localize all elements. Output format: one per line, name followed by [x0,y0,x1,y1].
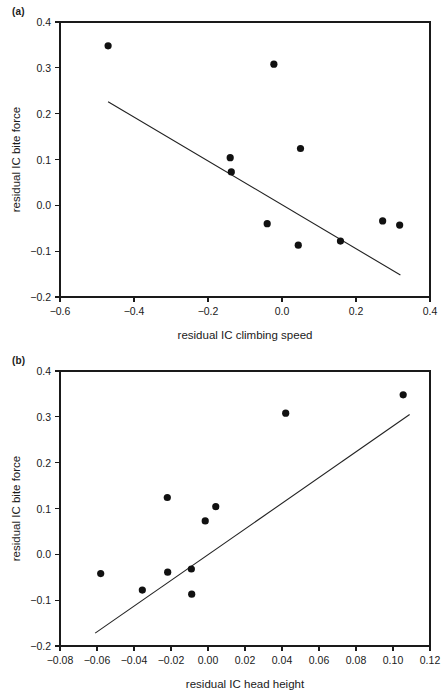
data-point [295,242,302,249]
y-tick-label: −0.2 [30,640,51,652]
y-axis-title: residual IC bite force [10,456,22,561]
plot-frame [60,371,430,646]
x-tick-label: 0.04 [272,654,293,666]
data-point [212,503,219,510]
y-tick-label: 0.0 [36,199,51,211]
y-tick-label: 0.2 [36,108,51,120]
data-point [164,569,171,576]
y-tick-label: −0.1 [30,594,51,606]
x-tick-label: −0.6 [50,305,71,317]
data-point [228,168,235,175]
panel-b: (b) −0.08−0.06−0.04−0.020.000.020.040.06… [0,349,447,699]
x-axis-title: residual IC climbing speed [178,329,313,341]
data-point [188,565,195,572]
panel-b-label: (b) [12,355,25,366]
y-tick-label: −0.1 [30,245,51,257]
x-tick-label: 0.06 [309,654,330,666]
data-point [400,391,407,398]
x-tick-label: 0.08 [346,654,367,666]
x-tick-label: 0.10 [383,654,404,666]
data-point [164,494,171,501]
x-tick-label: 0.12 [420,654,441,666]
y-tick-label: 0.1 [36,503,51,515]
data-point [105,42,112,49]
data-point [264,220,271,227]
data-point [139,586,146,593]
y-tick-label: −0.2 [30,291,51,303]
x-tick-label: −0.04 [121,654,148,666]
data-point [282,410,289,417]
x-tick-label: 0.4 [423,305,438,317]
data-point [379,217,386,224]
x-tick-label: 0.00 [198,654,219,666]
x-tick-label: 0.02 [235,654,256,666]
data-point [97,570,104,577]
panel-a-label: (a) [12,6,25,17]
panel-a-plot: −0.6−0.4−0.20.00.20.4−0.2−0.10.00.10.20.… [0,0,447,350]
x-tick-label: −0.02 [158,654,185,666]
data-point [396,221,403,228]
plot-frame [60,22,430,297]
y-tick-label: 0.2 [36,457,51,469]
y-tick-label: 0.3 [36,411,51,423]
x-tick-label: 0.2 [349,305,364,317]
data-point [227,154,234,161]
y-tick-label: 0.4 [36,16,51,28]
y-axis-title: residual IC bite force [10,107,22,212]
data-point [202,517,209,524]
x-tick-label: −0.4 [124,305,145,317]
data-point [270,61,277,68]
y-tick-label: 0.0 [36,548,51,560]
y-tick-label: 0.4 [36,365,51,377]
x-tick-label: −0.06 [84,654,111,666]
y-tick-label: 0.1 [36,154,51,166]
panel-a: (a) −0.6−0.4−0.20.00.20.4−0.2−0.10.00.10… [0,0,447,350]
data-point [337,237,344,244]
data-point [297,145,304,152]
panel-b-plot: −0.08−0.06−0.04−0.020.000.020.040.060.08… [0,349,447,699]
x-tick-label: −0.2 [198,305,219,317]
x-tick-label: −0.08 [47,654,74,666]
x-tick-label: 0.0 [275,305,290,317]
x-axis-title: residual IC head height [186,678,305,690]
data-point [188,591,195,598]
y-tick-label: 0.3 [36,62,51,74]
figure-container: (a) −0.6−0.4−0.20.00.20.4−0.2−0.10.00.10… [0,0,447,699]
